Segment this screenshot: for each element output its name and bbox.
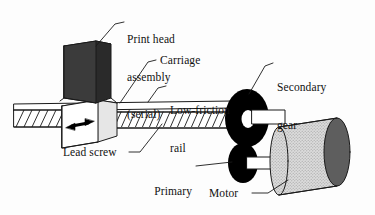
label-carriage: Carriage xyxy=(160,54,200,67)
label-print-head-line1: Print head xyxy=(127,33,175,46)
label-print-head-line3: (serial) xyxy=(127,108,175,121)
label-primary-gear-line1: Primary xyxy=(134,185,192,198)
leader-secondary-gear xyxy=(249,63,273,94)
label-rail-line1: Low-friction xyxy=(170,104,230,117)
label-lead-screw: Lead screw xyxy=(63,146,117,159)
label-rail-line2: rail xyxy=(170,142,230,155)
label-secondary-gear-line1: Secondary xyxy=(277,81,326,94)
label-secondary-gear: Secondary gear xyxy=(277,56,326,156)
print-head-box xyxy=(60,41,117,103)
carriage-box xyxy=(62,100,117,148)
diagram-canvas: Print head assembly (serial) Carriage Lo… xyxy=(0,0,375,215)
label-print-head-line2: assembly xyxy=(127,71,175,84)
label-print-head-assembly: Print head assembly (serial) xyxy=(127,8,175,146)
label-primary-gear: Primary gear xyxy=(134,160,192,215)
label-motor: Motor xyxy=(209,187,238,200)
label-secondary-gear-line2: gear xyxy=(277,119,326,132)
